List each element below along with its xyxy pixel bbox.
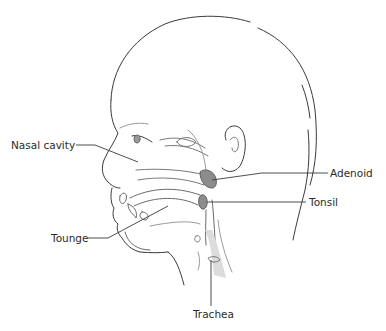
anatomy-diagram: Nasal cavity Adenoid Tonsil Tounge Trach… (0, 0, 386, 331)
skull-outline (111, 16, 250, 100)
label-tounge: Tounge (51, 232, 89, 244)
trachea-airway (205, 230, 226, 278)
label-trachea: Trachea (193, 308, 234, 320)
label-nasal-cavity: Nasal cavity (11, 139, 75, 151)
adenoid-leader (212, 173, 328, 180)
label-adenoid: Adenoid (330, 167, 373, 179)
tonsil-shape (199, 195, 208, 209)
adenoid-shape (200, 170, 216, 188)
tounge-leader (88, 206, 168, 238)
eye-icon (134, 135, 140, 143)
label-tonsil: Tonsil (309, 196, 338, 208)
head-illustration (0, 0, 386, 331)
ear-outline (222, 126, 245, 172)
face-profile (102, 100, 120, 188)
